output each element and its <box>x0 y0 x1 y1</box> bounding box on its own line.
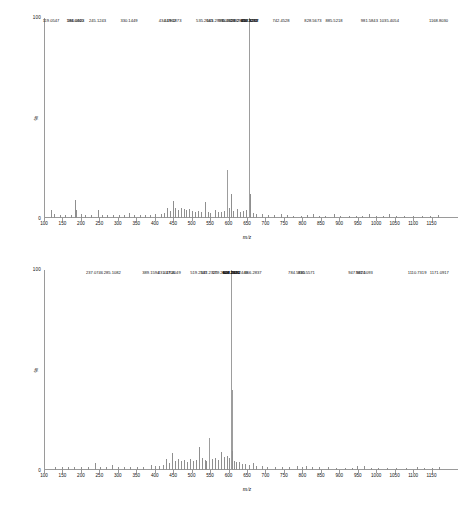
x-axis-tick-label: 350 <box>132 221 140 226</box>
peak-label: 666.2837 <box>244 270 261 275</box>
peak-bar-labeled <box>167 208 168 218</box>
peak-bar <box>256 214 257 218</box>
peak-bar-labeled <box>215 210 216 218</box>
plot-area-top: 100 0 % 119.0547184.0440186.0923245.1243… <box>44 18 450 218</box>
peak-bar <box>71 215 72 218</box>
peak-bar-labeled <box>221 452 222 470</box>
peak-bar-labeled <box>231 194 232 218</box>
peak-bar-labeled <box>76 210 77 218</box>
x-axis-tick-label: 1050 <box>390 473 400 478</box>
peak-bar <box>267 467 268 470</box>
peak-bar <box>242 464 243 470</box>
peak-bar <box>54 214 55 218</box>
peak-bar-labeled <box>51 210 52 218</box>
spectrum-panel-top: 100 0 % 119.0547184.0440186.0923245.1243… <box>0 0 476 252</box>
peak-bar <box>178 210 179 218</box>
peak-bar <box>175 461 176 470</box>
spectrum-panel-bottom: 100 0 % 237.0746285.1082389.1594431.1706… <box>0 252 476 509</box>
peak-bar <box>362 216 363 218</box>
peak-label: 658.3317 <box>242 18 259 23</box>
peak-bar <box>124 467 125 470</box>
x-axis-tick-label: 450 <box>169 473 177 478</box>
peak-bar-labeled <box>173 201 174 218</box>
mass-spectra-page: 100 0 % 119.0547184.0440186.0923245.1243… <box>0 0 476 509</box>
peak-bar-labeled <box>417 467 418 470</box>
peak-label: 186.0923 <box>67 18 84 23</box>
x-axis-tick-label: 850 <box>317 221 325 226</box>
peak-label: 1168.8030 <box>429 18 448 23</box>
peak-bar <box>430 216 431 218</box>
x-axis-tick-label: 1050 <box>390 221 400 226</box>
peak-bar <box>262 466 263 470</box>
peak-bar <box>134 215 135 218</box>
peak-label: 1035.4054 <box>380 18 399 23</box>
peak-bar <box>319 467 320 470</box>
y-axis-max-label-top: 100 <box>33 15 41 20</box>
peak-bar-labeled <box>199 447 200 470</box>
peak-label: 245.1243 <box>89 18 106 23</box>
y-axis-line-top <box>44 18 45 218</box>
peak-bar-labeled <box>297 466 298 470</box>
peak-bar <box>140 215 141 218</box>
peak-bar <box>396 468 397 470</box>
x-axis-tick-label: 200 <box>77 221 85 226</box>
peak-bar <box>186 210 187 218</box>
x-axis-tick-label: 800 <box>299 473 307 478</box>
x-axis-tick-label: 1100 <box>408 221 418 226</box>
x-axis-tick-label: 700 <box>262 473 270 478</box>
plot-area-bottom: 100 0 % 237.0746285.1082389.1594431.1706… <box>44 270 450 470</box>
peak-bar <box>106 467 107 470</box>
peak-bar <box>65 215 66 218</box>
peak-bar <box>55 467 56 470</box>
peak-bar-labeled <box>129 213 130 218</box>
peak-bar-labeled <box>281 214 282 218</box>
peak-label: 330.1449 <box>120 18 137 23</box>
peak-bar <box>253 213 254 218</box>
peak-bar <box>383 216 384 218</box>
peak-bar-labeled <box>306 466 307 470</box>
x-axis-tick-label: 250 <box>96 473 104 478</box>
peak-bar-labeled <box>209 438 210 470</box>
peak-bar <box>240 212 241 218</box>
peak-bar <box>196 460 197 470</box>
peak-bar <box>224 457 225 470</box>
peak-bar-labeled <box>313 214 314 218</box>
peak-bar-labeled <box>369 214 370 218</box>
peak-bar <box>184 209 185 218</box>
peak-bar <box>113 215 114 218</box>
peak-label: 1171.0917 <box>430 270 449 275</box>
x-axis-tick-label: 1150 <box>427 221 437 226</box>
peak-bar <box>164 213 165 218</box>
peak-bar <box>256 466 257 470</box>
peak-bar-labeled <box>232 451 233 470</box>
peak-label: 885.5218 <box>325 18 342 23</box>
peak-bar <box>145 215 146 218</box>
x-axis-tick-label: 150 <box>59 221 67 226</box>
peak-bar <box>218 212 219 218</box>
peak-bar <box>187 462 188 470</box>
x-axis-tick-label: 1100 <box>408 473 418 478</box>
peak-bar <box>178 459 179 470</box>
peak-bar <box>91 215 92 218</box>
peak-bar-labeled <box>151 465 152 470</box>
peak-bar <box>88 467 89 470</box>
peak-bar <box>275 467 276 470</box>
x-axis-tick-label: 750 <box>280 221 288 226</box>
peak-label: 449.1873 <box>164 18 181 23</box>
peak-bar <box>224 211 225 218</box>
peak-bar <box>193 461 194 470</box>
x-axis-tick-label: 400 <box>151 473 159 478</box>
x-axis-tick-label: 400 <box>151 221 159 226</box>
peak-bar <box>221 212 222 218</box>
peak-bar <box>352 468 353 470</box>
peak-bar <box>201 212 202 218</box>
x-axis-tick-label: 800 <box>299 221 307 226</box>
peak-label: 810.5571 <box>298 270 315 275</box>
peak-bar <box>319 216 320 218</box>
x-axis-tick-label: 600 <box>225 221 233 226</box>
peak-label: 237.0746 <box>86 270 103 275</box>
peak-bar-labeled <box>334 214 335 218</box>
peak-bar <box>312 467 313 470</box>
peak-bar-labeled <box>239 462 240 470</box>
peak-bar-labeled <box>438 215 439 218</box>
